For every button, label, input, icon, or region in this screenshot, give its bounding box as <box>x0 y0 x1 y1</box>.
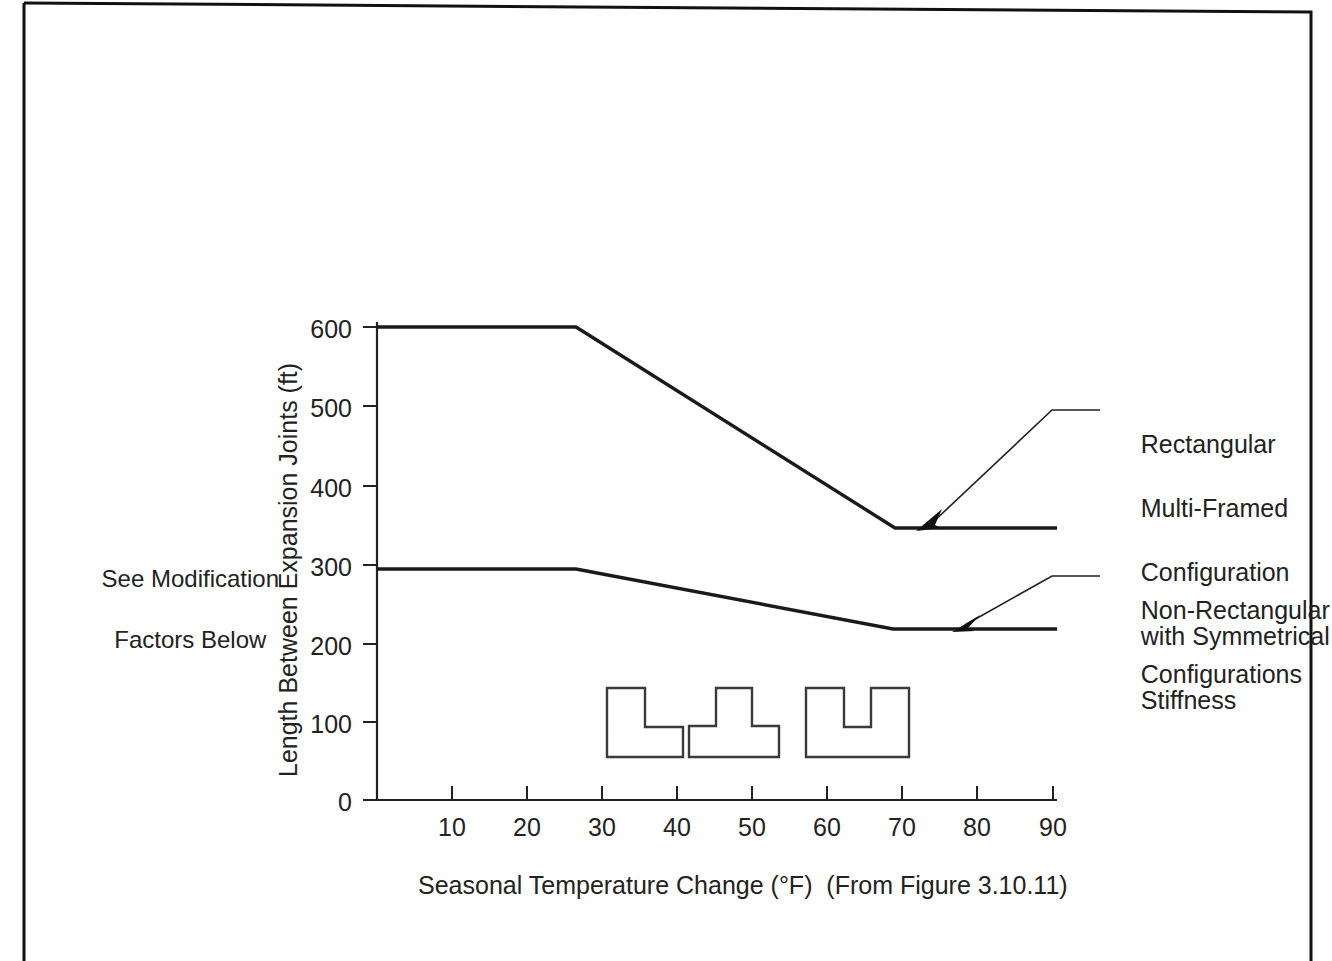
arrowhead-rectangular <box>916 509 942 531</box>
callout-line: Multi-Framed <box>1141 494 1288 522</box>
note-line-2: Factors Below <box>114 626 266 653</box>
x-tick-label: 70 <box>872 811 932 843</box>
l-shape-plan-icon <box>607 688 683 757</box>
x-tick-label: 50 <box>722 811 782 843</box>
y-axis-ticks <box>363 327 377 800</box>
figure-page: 600 500 400 300 200 100 0 10 20 30 40 50… <box>0 0 1332 961</box>
x-tick-label: 20 <box>497 811 557 843</box>
series-line-rectangular-multi-framed <box>377 327 1057 528</box>
x-axis-title: Seasonal Temperature Change (°F) (From F… <box>418 869 1068 901</box>
x-tick-label: 80 <box>947 811 1007 843</box>
note-line-1: See Modification <box>102 565 279 592</box>
x-tick-label: 90 <box>1023 811 1083 843</box>
callout-line: Rectangular <box>1141 430 1276 458</box>
y-tick-label: 600 <box>274 313 352 345</box>
x-axis-ticks <box>452 786 1053 800</box>
t-shape-plan-icon <box>689 688 779 757</box>
callout-line: Non-Rectangular <box>1141 596 1330 624</box>
callout-non-rectangular: Non-Rectangular Configurations <box>1113 562 1330 722</box>
x-tick-label: 10 <box>422 811 482 843</box>
series-line-non-rectangular <box>377 569 1057 629</box>
leader-line-non-rectangular <box>965 576 1100 625</box>
x-tick-label: 60 <box>797 811 857 843</box>
modification-factors-note: See Modification Factors Below <box>62 533 292 687</box>
leader-line-rectangular <box>930 410 1100 525</box>
u-shape-plan-icon <box>806 688 909 757</box>
y-tick-label: 0 <box>274 786 352 818</box>
x-tick-label: 40 <box>647 811 707 843</box>
callout-line: Configurations <box>1141 660 1302 688</box>
x-tick-label: 30 <box>572 811 632 843</box>
